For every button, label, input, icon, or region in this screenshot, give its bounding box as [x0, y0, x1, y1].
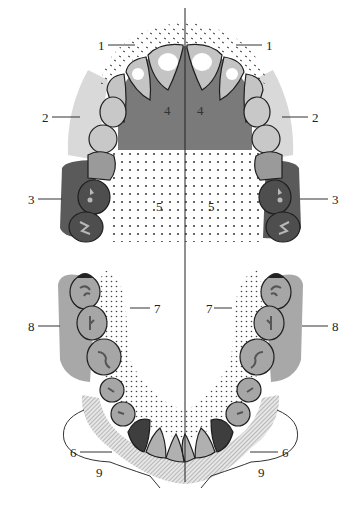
- tooth-upper-first-premolar-left: [100, 97, 126, 127]
- label-3-left: 3: [28, 193, 35, 206]
- label-1-right: 1: [266, 39, 273, 52]
- tooth-upper-first-molar-left-mesial: [88, 152, 115, 180]
- label-9-left: 9: [96, 466, 103, 479]
- label-2-left: 2: [42, 111, 49, 124]
- label-8-right: 8: [332, 320, 339, 333]
- tooth-upper-second-premolar-right: [252, 125, 280, 153]
- tooth-lower-second-molar-right: [261, 275, 291, 309]
- label-9-right: 9: [258, 466, 265, 479]
- tooth-upper-first-molar-right: [259, 180, 291, 214]
- label-3-right: 3: [332, 193, 339, 206]
- label-6-left: 6: [70, 446, 77, 459]
- label-7-left: 7: [154, 302, 161, 315]
- tooth-upper-second-premolar-left: [89, 125, 117, 153]
- tooth-lower-second-molar-left: [70, 275, 100, 309]
- label-8-left: 8: [28, 320, 35, 333]
- lower-arch: [58, 270, 303, 488]
- label-2-right: 2: [312, 111, 319, 124]
- label-4-right: 4: [197, 104, 204, 117]
- region-6-labial-gingiva: [82, 395, 279, 484]
- label-4-left: 4: [164, 104, 171, 117]
- label-5-right: 5: [208, 200, 215, 213]
- tooth-upper-first-molar-right-mesial: [255, 152, 282, 180]
- label-5-left: 5: [156, 200, 163, 213]
- diagram-canvas: [0, 0, 361, 512]
- label-7-right: 7: [206, 302, 213, 315]
- upper-arch: [60, 22, 301, 242]
- tooth-upper-first-premolar-right: [244, 97, 270, 127]
- tooth-lower-second-premolar-molar-right: [240, 339, 274, 375]
- label-1-left: 1: [98, 39, 105, 52]
- label-6-right: 6: [282, 446, 289, 459]
- tooth-lower-second-premolar-molar-left: [87, 339, 121, 375]
- dental-arches-diagram: 1 1 2 2 3 3 4 4 5 5 7 7 8 8 6 6 9 9: [0, 0, 361, 512]
- tooth-upper-first-molar-left: [78, 180, 110, 214]
